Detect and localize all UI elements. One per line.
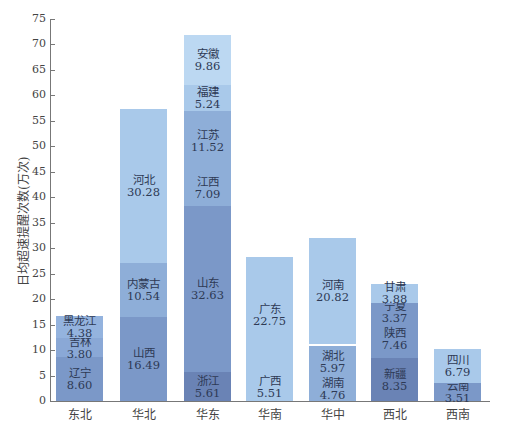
y-tick-mark: [51, 95, 55, 96]
segment-value: 20.82: [316, 291, 349, 303]
bar-华北: 山西16.49内蒙古10.54河北30.28: [120, 109, 167, 401]
y-tick-label: 25: [20, 267, 46, 280]
bar-西北: 新疆8.35陕西7.46宁夏3.37甘肃3.88: [371, 284, 418, 401]
bar-segment: 甘肃3.88: [371, 284, 418, 304]
bar-segment: 云南3.51: [434, 383, 481, 401]
y-tick-mark: [51, 376, 55, 377]
y-tick-label: 5: [20, 369, 46, 382]
bar-segment: 广东22.75: [246, 257, 293, 373]
y-tick-label: 60: [20, 88, 46, 101]
bar-西南: 云南3.51四川6.79: [434, 349, 481, 401]
bar-segment: 辽宁8.60: [56, 357, 103, 401]
y-tick-label: 55: [20, 114, 46, 127]
segment-value: 5.61: [195, 387, 221, 399]
x-axis-line: [50, 401, 490, 402]
segment-name: 黑龙江: [63, 315, 96, 327]
bar-segment: 吉林3.80: [56, 338, 103, 357]
y-tick-mark: [51, 325, 55, 326]
segment-name: 新疆: [384, 368, 406, 380]
bar-segment: 黑龙江4.38: [56, 316, 103, 338]
stacked-bar-chart: 日均超速提醒次数(万次) 051015202530354045505560657…: [0, 0, 507, 433]
y-tick-label: 35: [20, 216, 46, 229]
bar-segment: 河南20.82: [309, 238, 356, 346]
y-tick-label: 10: [20, 343, 46, 356]
bar-东北: 辽宁8.60吉林3.80黑龙江4.38: [56, 316, 103, 401]
segment-value: 4.76: [320, 389, 346, 401]
segment-value: 8.60: [67, 379, 93, 391]
y-tick-label: 75: [20, 12, 46, 25]
segment-value: 3.88: [382, 293, 408, 305]
segment-value: 32.63: [191, 289, 224, 301]
y-axis-line: [50, 19, 51, 402]
y-tick-label: 45: [20, 165, 46, 178]
bar-segment: 四川6.79: [434, 349, 481, 384]
y-tick-mark: [51, 350, 55, 351]
y-tick-mark: [51, 274, 55, 275]
segment-name: 四川: [447, 354, 469, 366]
x-tick-label: 华东: [178, 405, 238, 422]
y-tick-mark: [51, 299, 55, 300]
segment-value: 5.24: [195, 98, 221, 110]
bar-segment: 新疆8.35: [371, 358, 418, 401]
bar-华东: 浙江5.61山东32.63江西7.09江苏11.52福建5.24安徽9.86: [184, 35, 231, 401]
bar-segment: 山西16.49: [120, 317, 167, 401]
y-tick-label: 40: [20, 190, 46, 203]
y-tick-mark: [51, 146, 55, 147]
bar-segment: 内蒙古10.54: [120, 263, 167, 317]
y-tick-mark: [51, 223, 55, 224]
segment-value: 8.35: [382, 380, 408, 392]
x-tick-label: 西南: [428, 405, 488, 422]
y-tick-mark: [51, 401, 55, 402]
bar-segment: 广西5.51: [246, 373, 293, 401]
x-tick-label: 西北: [365, 405, 425, 422]
segment-value: 3.51: [445, 392, 471, 404]
segment-value: 10.54: [127, 290, 160, 302]
segment-name: 湖北: [322, 350, 344, 362]
x-tick-label: 华中: [303, 405, 363, 422]
y-tick-label: 20: [20, 292, 46, 305]
bar-segment: 安徽9.86: [184, 35, 231, 85]
y-tick-mark: [51, 121, 55, 122]
y-tick-label: 15: [20, 318, 46, 331]
segment-value: 30.28: [127, 186, 160, 198]
bar-华南: 广西5.51广东22.75: [246, 257, 293, 401]
segment-value: 5.97: [320, 362, 346, 374]
segment-value: 22.75: [253, 315, 286, 327]
segment-name: 安徽: [197, 48, 219, 60]
bar-segment: 山东32.63: [184, 206, 231, 372]
segment-value: 4.38: [67, 327, 93, 339]
y-tick-label: 70: [20, 37, 46, 50]
y-tick-mark: [51, 197, 55, 198]
bar-segment: 江苏11.52: [184, 111, 231, 170]
y-tick-mark: [51, 19, 55, 20]
x-tick-label: 华南: [240, 405, 300, 422]
y-tick-mark: [51, 248, 55, 249]
segment-name: 浙江: [197, 375, 219, 387]
bar-segment: 福建5.24: [184, 85, 231, 112]
y-tick-mark: [51, 70, 55, 71]
segment-value: 7.09: [195, 188, 221, 200]
bar-segment: 河北30.28: [120, 109, 167, 263]
segment-value: 6.79: [445, 366, 471, 378]
y-tick-label: 0: [20, 394, 46, 407]
bar-segment: 浙江5.61: [184, 372, 231, 401]
segment-value: 11.52: [191, 141, 224, 153]
segment-value: 5.51: [257, 387, 283, 399]
y-tick-label: 50: [20, 139, 46, 152]
segment-value: 3.80: [67, 348, 93, 360]
segment-value: 7.46: [382, 339, 408, 351]
y-tick-mark: [51, 172, 55, 173]
bar-segment: 湖北5.97: [309, 346, 356, 376]
segment-value: 9.86: [195, 60, 221, 72]
segment-value: 16.49: [127, 359, 160, 371]
segment-value: 3.37: [382, 312, 408, 324]
bar-segment: 江西7.09: [184, 170, 231, 206]
y-tick-label: 65: [20, 63, 46, 76]
x-tick-label: 华北: [114, 405, 174, 422]
bar-segment: 陕西7.46: [371, 320, 418, 358]
bar-segment: 湖南4.76: [309, 377, 356, 401]
x-tick-label: 东北: [50, 405, 110, 422]
segment-name: 江苏: [197, 129, 219, 141]
y-tick-label: 30: [20, 241, 46, 254]
y-tick-mark: [51, 44, 55, 45]
